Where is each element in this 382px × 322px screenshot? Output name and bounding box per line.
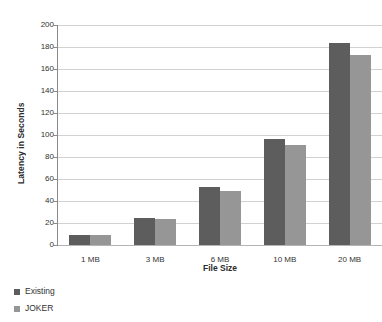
legend-label: JOKER [25,304,53,313]
y-axis-tick-label: 60 [28,175,54,183]
bar [329,43,350,245]
bar [69,235,90,245]
bar [264,139,285,245]
x-axis-tick-label: 10 MB [252,256,317,264]
legend-label: Existing [25,287,55,296]
legend: ExistingJOKER [14,283,164,317]
y-axis-tick-label: 200 [28,21,54,29]
y-axis-tick-label: 20 [28,219,54,227]
bar [199,187,220,245]
legend-item: Existing [14,283,164,300]
gridline [58,245,382,246]
x-axis-tick-labels: 1 MB3 MB6 MB10 MB20 MB [58,250,382,264]
x-axis-tick-label: 1 MB [58,256,123,264]
plot-area: Latency in Seconds 020406080100120140160… [0,0,382,270]
y-axis-title: Latency in Seconds [14,88,28,198]
bar-chart-figure: Latency in Seconds 020406080100120140160… [0,0,382,322]
y-axis-tick-label: 80 [28,153,54,161]
bar [90,235,111,245]
y-axis-tick-label: 120 [28,109,54,117]
bar-group [317,25,382,245]
legend-swatch-icon [14,306,20,312]
y-axis-tick-label: 180 [28,43,54,51]
bar [350,55,371,245]
y-axis-tick-label: 0 [28,241,54,249]
bar [155,219,176,245]
y-axis-tick-label: 100 [28,131,54,139]
y-axis-tick-labels: 020406080100120140160180200 [28,25,54,245]
bar [285,145,306,245]
x-axis-tick-label: 20 MB [317,256,382,264]
legend-swatch-icon [14,289,20,295]
bar-group [123,25,188,245]
bar [220,191,241,245]
x-axis-title: File Size [58,264,382,273]
y-axis-tick-label: 40 [28,197,54,205]
bar-group [252,25,317,245]
x-axis-tick-label: 3 MB [123,256,188,264]
y-axis-tick-label: 140 [28,87,54,95]
legend-item: JOKER [14,300,164,317]
bars-layer [58,25,382,245]
bar-group [188,25,253,245]
bar-group [58,25,123,245]
bar [134,218,155,246]
y-axis-tick-label: 160 [28,65,54,73]
